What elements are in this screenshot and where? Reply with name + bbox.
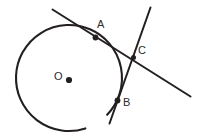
geometry-figure: A B C O xyxy=(0,0,202,139)
label-point-b: B xyxy=(123,97,130,108)
point-marker-b xyxy=(115,98,121,104)
circle-center-dot xyxy=(66,77,72,83)
point-marker-a xyxy=(93,35,99,41)
label-point-c: C xyxy=(138,45,146,56)
label-center-o: O xyxy=(54,71,63,82)
label-point-a: A xyxy=(97,19,104,30)
point-marker-c xyxy=(131,55,136,60)
